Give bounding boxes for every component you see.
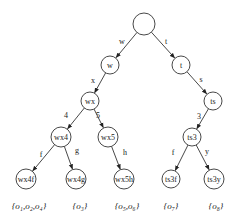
edge-ts-ts3: 3 xyxy=(197,109,209,129)
node-wx4: wx4 xyxy=(51,127,71,147)
node-label: wx5 xyxy=(101,133,115,142)
edges: wtxs453fghfy xyxy=(33,32,209,171)
node-label: w xyxy=(107,61,113,70)
edge-wx-wx5: 5 xyxy=(94,109,103,128)
edge-wx4-wx4g: g xyxy=(64,146,79,170)
edge-label: y xyxy=(205,147,209,156)
edge-wx-wx4: 4 xyxy=(64,108,84,129)
edge-label: f xyxy=(172,148,175,157)
node-root xyxy=(133,13,155,35)
edge-label: h xyxy=(123,148,127,157)
node-ts3f: ts3f xyxy=(162,170,180,188)
edge-arrow xyxy=(64,146,72,169)
node-label: wx5h xyxy=(115,175,133,184)
leaf-sets: {o₁,o₂,o₄}{o₃}{o₅,o₆}{o₇}{o₈} xyxy=(12,201,224,211)
node-wx4g: wx4g xyxy=(66,169,86,189)
edge-arrow xyxy=(112,146,121,169)
node-circle xyxy=(133,13,155,35)
edge-arrow xyxy=(33,145,55,171)
edge-label: s xyxy=(199,75,202,84)
edge-label: g xyxy=(75,146,79,155)
leaf-set-wx4f: {o₁,o₂,o₄} xyxy=(12,201,47,211)
edge-t-ts: s xyxy=(187,72,207,94)
edge-label: f xyxy=(40,150,43,159)
edge-label: 3 xyxy=(197,112,201,121)
node-t: t xyxy=(172,56,190,74)
node-ts3y: ts3y xyxy=(204,169,224,189)
edge-root-t: t xyxy=(151,32,174,58)
edge-arrow xyxy=(68,108,85,129)
edge-label: t xyxy=(165,37,168,46)
edge-label: x xyxy=(91,76,95,85)
leaf-set-wx5h: {o₅,o₆} xyxy=(115,201,140,211)
node-label: wx xyxy=(85,97,95,106)
edge-ts3-ts3f: f xyxy=(172,145,188,170)
edge-ts3-ts3y: y xyxy=(196,145,209,170)
edge-wx5-wx5h: h xyxy=(112,146,127,169)
edge-root-w: w xyxy=(116,32,137,57)
node-wx5: wx5 xyxy=(98,127,118,147)
edge-wx4-wx4f: f xyxy=(33,145,55,171)
node-label: ts3y xyxy=(207,175,220,184)
edge-arrow xyxy=(151,32,174,58)
node-label: ts3f xyxy=(165,175,177,184)
edge-arrow xyxy=(95,73,106,93)
node-label: ts xyxy=(210,97,215,106)
edge-w-wx: x xyxy=(91,73,106,93)
edge-label: 4 xyxy=(64,111,68,120)
node-w: w xyxy=(101,56,119,74)
edge-label: 5 xyxy=(96,111,100,120)
node-label: wx4f xyxy=(18,175,35,184)
edge-arrow xyxy=(187,72,207,94)
trie-diagram: wtxs453fghfy wtwxtswx4wx5ts3wx4fwx4gwx5h… xyxy=(0,0,239,223)
node-ts3: ts3 xyxy=(183,128,201,146)
edge-arrow xyxy=(175,145,188,170)
leaf-set-ts3y: {o₈} xyxy=(209,201,224,211)
edge-label: w xyxy=(119,37,125,46)
leaf-set-ts3f: {o₇} xyxy=(164,201,179,211)
node-ts: ts xyxy=(204,92,222,110)
node-label: ts3 xyxy=(187,133,196,142)
node-wx: wx xyxy=(81,92,99,110)
node-wx4f: wx4f xyxy=(16,169,36,189)
leaf-set-wx4g: {o₃} xyxy=(73,201,88,211)
node-wx5h: wx5h xyxy=(114,169,134,189)
node-label: wx4 xyxy=(54,133,68,142)
node-label: wx4g xyxy=(67,175,85,184)
